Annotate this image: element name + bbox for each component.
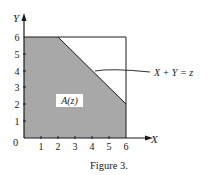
y-tick-label: 1 (15, 116, 20, 127)
y-tick-label: 5 (15, 49, 20, 60)
x-tick-label: 5 (107, 141, 112, 152)
x-axis-label: X (150, 133, 159, 145)
y-tick-label: 2 (15, 99, 20, 110)
line-label: X + Y = z (153, 67, 193, 78)
y-tick-label: 6 (15, 32, 20, 43)
shaded-region-a-z (24, 37, 126, 138)
figure-caption: Figure 3. (90, 160, 128, 171)
y-axis-label: Y (13, 12, 21, 24)
x-tick-label: 2 (56, 141, 61, 152)
leader-line (95, 70, 150, 72)
region-label: A(z) (60, 95, 78, 107)
y-tick-label: 3 (15, 82, 20, 93)
x-tick-label: 3 (73, 141, 78, 152)
y-tick-label: 4 (15, 66, 20, 77)
x-tick-label: 4 (90, 141, 95, 152)
y-axis-arrow-icon (22, 13, 27, 21)
figure-canvas: Y X 0 1 2 3 4 5 6 1 2 3 4 5 6 A(z) X + Y… (0, 0, 213, 175)
origin-label: 0 (13, 137, 18, 148)
x-tick-label: 6 (124, 141, 129, 152)
x-tick-label: 1 (39, 141, 44, 152)
